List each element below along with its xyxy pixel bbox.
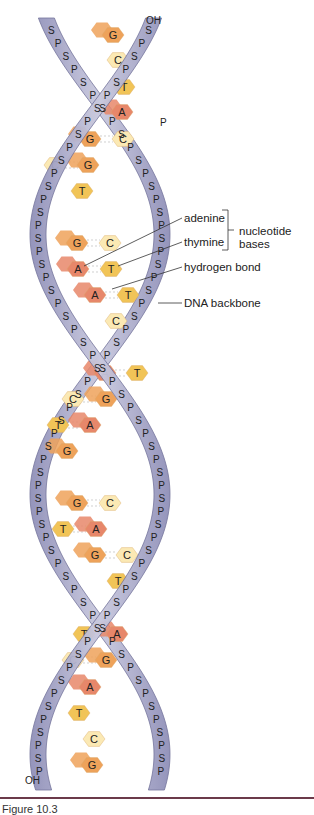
base-G: G xyxy=(70,753,103,773)
svg-text:A: A xyxy=(86,681,94,693)
svg-text:G: G xyxy=(63,445,72,457)
backbone-unit: P xyxy=(157,246,164,257)
backbone-unit: P xyxy=(55,298,62,309)
end-p-top: P xyxy=(160,117,167,128)
backbone-unit: P xyxy=(71,584,78,595)
backbone-unit: P xyxy=(142,688,149,699)
backbone-unit: P xyxy=(66,142,73,153)
figure-caption: Figure 10.3 xyxy=(2,803,58,815)
backbone-unit: P xyxy=(51,688,58,699)
svg-text:C: C xyxy=(106,497,114,509)
backbone-unit: S xyxy=(80,77,87,88)
backbone-unit: S xyxy=(48,285,55,296)
backbone-unit: P xyxy=(157,766,164,777)
backbone-unit: P xyxy=(127,662,134,673)
backbone-unit: S xyxy=(45,441,52,452)
base-C: C xyxy=(99,496,121,511)
backbone-unit: S xyxy=(35,493,42,504)
backbone-unit: P xyxy=(84,116,91,127)
backbone-unit: P xyxy=(35,480,42,491)
backbone-unit: S xyxy=(62,311,69,322)
backbone-unit: P xyxy=(35,220,42,231)
backbone-unit: S xyxy=(113,337,120,348)
svg-text:C: C xyxy=(106,237,114,249)
backbone-unit: S xyxy=(118,649,125,660)
backbone-unit: S xyxy=(148,701,155,712)
leader-line xyxy=(118,242,182,266)
backbone-unit: S xyxy=(75,389,82,400)
label-adenine: adenine xyxy=(184,212,225,225)
backbone-unit: S xyxy=(156,207,163,218)
base-T: T xyxy=(126,366,148,381)
backbone-unit: S xyxy=(155,519,162,530)
svg-text:T: T xyxy=(79,185,86,197)
backbone-unit: S xyxy=(75,129,82,140)
svg-text:G: G xyxy=(91,549,100,561)
backbone-unit: S xyxy=(58,675,65,686)
backbone-unit: S xyxy=(39,259,46,270)
backbone-unit: P xyxy=(158,480,165,491)
backbone-unit: P xyxy=(142,168,149,179)
backbone-unit: P xyxy=(43,532,50,543)
backbone-unit: P xyxy=(109,636,116,647)
backbone-unit: P xyxy=(51,168,58,179)
backbone-unit: S xyxy=(131,571,138,582)
backbone-unit: S xyxy=(118,129,125,140)
backbone-unit: P xyxy=(71,64,78,75)
svg-text:G: G xyxy=(84,159,93,171)
backbone-unit: P xyxy=(153,714,160,725)
base-A: A xyxy=(68,675,101,695)
backbone-unit: P xyxy=(142,428,149,439)
svg-text:A: A xyxy=(92,523,100,535)
backbone-unit: P xyxy=(139,298,146,309)
backbone-unit: S xyxy=(159,233,166,244)
svg-text:T: T xyxy=(108,263,115,275)
base-C: C xyxy=(83,732,105,747)
backbone-unit: S xyxy=(58,155,65,166)
svg-text:T: T xyxy=(134,367,141,379)
backbone-unit: S xyxy=(113,77,120,88)
backbone-unit: P xyxy=(55,558,62,569)
svg-text:A: A xyxy=(91,289,99,301)
backbone-unit: P xyxy=(151,532,158,543)
backbone-unit: S xyxy=(35,233,42,244)
base-G: G xyxy=(91,23,124,43)
svg-text:G: G xyxy=(109,29,118,41)
backbone-unit: S xyxy=(75,649,82,660)
svg-text:G: G xyxy=(73,237,82,249)
backbone-unit: P xyxy=(84,636,91,647)
backbone-unit: P xyxy=(139,38,146,49)
backbone-unit: P xyxy=(55,38,62,49)
backbone-unit: S xyxy=(99,623,106,634)
base-A: A xyxy=(68,413,101,433)
base-G: G xyxy=(55,491,88,511)
backbone-unit: S xyxy=(94,363,101,374)
backbone-unit: S xyxy=(113,597,120,608)
backbone-unit: S xyxy=(58,415,65,426)
backbone-unit: S xyxy=(156,727,163,738)
base-T: T xyxy=(52,522,74,537)
backbone-unit: P xyxy=(109,116,116,127)
svg-text:G: G xyxy=(73,497,82,509)
backbone-unit: S xyxy=(159,493,166,504)
backbone-unit: S xyxy=(45,701,52,712)
base-C: C xyxy=(99,236,121,251)
backbone-unit: P xyxy=(51,428,58,439)
label-thymine: thymine xyxy=(184,236,224,249)
backbone-unit: P xyxy=(153,194,160,205)
svg-text:A: A xyxy=(86,419,94,431)
backbone-unit: P xyxy=(71,324,78,335)
backbone-unit: P xyxy=(122,584,129,595)
backbone-unit: P xyxy=(90,350,97,361)
backbone-unit: P xyxy=(90,610,97,621)
backbone-unit: S xyxy=(156,467,163,478)
backbone-unit: P xyxy=(139,558,146,569)
base-G: G xyxy=(55,231,88,251)
backbone-unit: P xyxy=(109,376,116,387)
backbone-unit: P xyxy=(66,662,73,673)
backbone-unit: S xyxy=(135,155,142,166)
backbone-unit: S xyxy=(80,597,87,608)
svg-text:C: C xyxy=(90,733,98,745)
backbone-unit: P xyxy=(104,350,111,361)
